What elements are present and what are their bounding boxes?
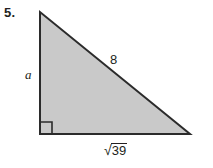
triangle-shape [40,12,190,134]
label-leg-horizontal: √ 39 [104,143,127,159]
label-leg-vertical: a [25,68,32,81]
radical-sign-icon: √ [104,143,112,157]
label-hypotenuse: 8 [110,53,117,66]
figure-panel: 5. a 8 √ 39 [0,0,213,168]
radicand-value: 39 [111,143,127,159]
